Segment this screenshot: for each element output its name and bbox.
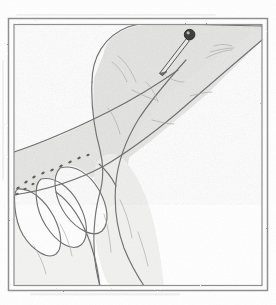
line-drawing-canvas [0, 0, 276, 305]
figure-plate: Bird head and neck with wing coverts, pi… [0, 0, 276, 305]
scan-grain-overlay [0, 0, 276, 305]
